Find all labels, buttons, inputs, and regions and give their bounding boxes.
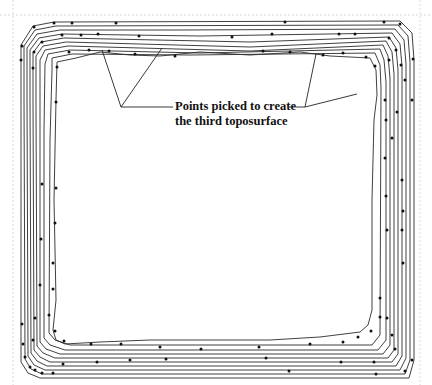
annotation-line-1: Points picked to create [175, 99, 296, 113]
picked-points [20, 21, 415, 376]
contour-diagram: Points picked to create the third toposu… [0, 0, 432, 385]
contour-lines [21, 21, 414, 378]
annotation-line-2: the third toposurface [175, 114, 288, 128]
annotation: Points picked to create the third toposu… [175, 99, 296, 128]
